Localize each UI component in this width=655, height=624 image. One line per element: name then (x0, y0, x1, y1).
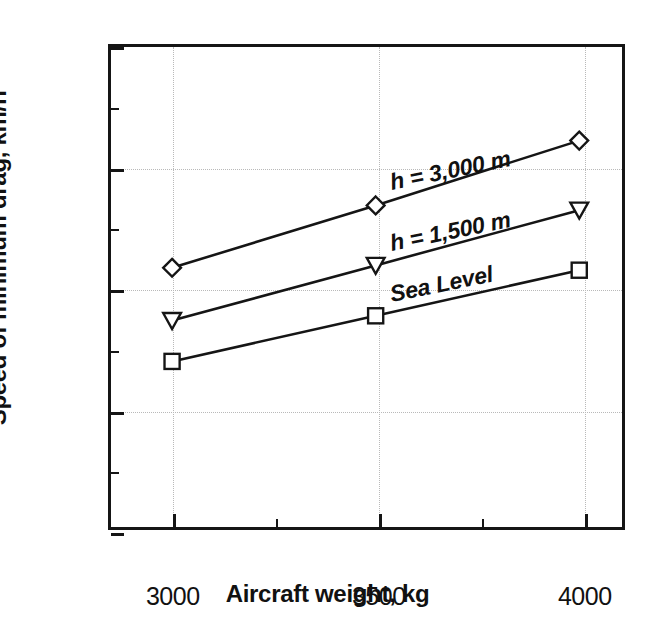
data-series-layer (111, 47, 622, 527)
data-point-marker (367, 197, 385, 215)
chart-figure: Speed of minimum drag, km/h Aircraft wei… (0, 0, 655, 624)
y-tick-major (111, 533, 124, 536)
data-series (163, 132, 588, 277)
data-point-marker (572, 263, 587, 278)
x-tick-label: 3000 (113, 584, 233, 609)
x-tick-label: 3500 (319, 584, 439, 609)
data-point-marker (163, 313, 181, 329)
data-point-marker (570, 132, 588, 150)
y-axis-title: Speed of minimum drag, km/h (0, 0, 12, 518)
data-point-marker (163, 259, 181, 277)
data-series (165, 263, 587, 369)
data-point-marker (165, 354, 180, 369)
data-point-marker (368, 308, 383, 323)
x-tick-label: 4000 (525, 584, 645, 609)
plot-area: 150175200225250300035004000 h = 3,000 mh… (108, 44, 625, 530)
